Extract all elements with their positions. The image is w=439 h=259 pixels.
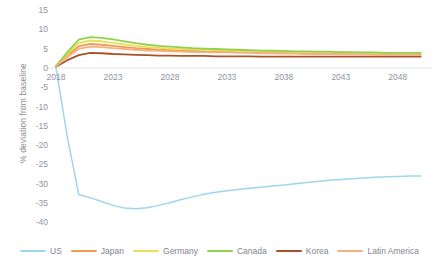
legend-label: Latin America xyxy=(367,246,419,256)
legend-label: Japan xyxy=(101,246,124,256)
x-axis-tick-label: 2033 xyxy=(217,72,236,82)
series-line-us xyxy=(56,68,421,209)
legend-item-canada[interactable]: Canada xyxy=(207,246,267,256)
x-axis-tick-label: 2048 xyxy=(388,72,407,82)
x-axis-tick-label: 2028 xyxy=(160,72,179,82)
legend-item-latin-america[interactable]: Latin America xyxy=(337,246,419,256)
line-chart: % deviation from baseline 151050-5-10-15… xyxy=(0,0,439,259)
legend-label: Germany xyxy=(163,246,198,256)
legend-swatch-icon xyxy=(337,250,363,252)
chart-legend: USJapanGermanyCanadaKoreaLatin America xyxy=(0,243,439,259)
legend-swatch-icon xyxy=(207,250,233,252)
legend-swatch-icon xyxy=(276,250,302,252)
legend-swatch-icon xyxy=(20,250,46,252)
x-axis-tick-label: 2018 xyxy=(47,72,66,82)
legend-item-us[interactable]: US xyxy=(20,246,62,256)
legend-swatch-icon xyxy=(71,250,97,252)
legend-item-germany[interactable]: Germany xyxy=(133,246,198,256)
plot-area: 2018202320282033203820432048 xyxy=(0,0,439,259)
legend-label: US xyxy=(50,246,62,256)
x-axis-tick-label: 2043 xyxy=(331,72,350,82)
x-axis-tick-label: 2023 xyxy=(104,72,123,82)
legend-swatch-icon xyxy=(133,250,159,252)
legend-item-korea[interactable]: Korea xyxy=(276,246,329,256)
legend-label: Korea xyxy=(306,246,329,256)
legend-item-japan[interactable]: Japan xyxy=(71,246,124,256)
legend-label: Canada xyxy=(237,246,267,256)
x-axis-tick-label: 2038 xyxy=(274,72,293,82)
